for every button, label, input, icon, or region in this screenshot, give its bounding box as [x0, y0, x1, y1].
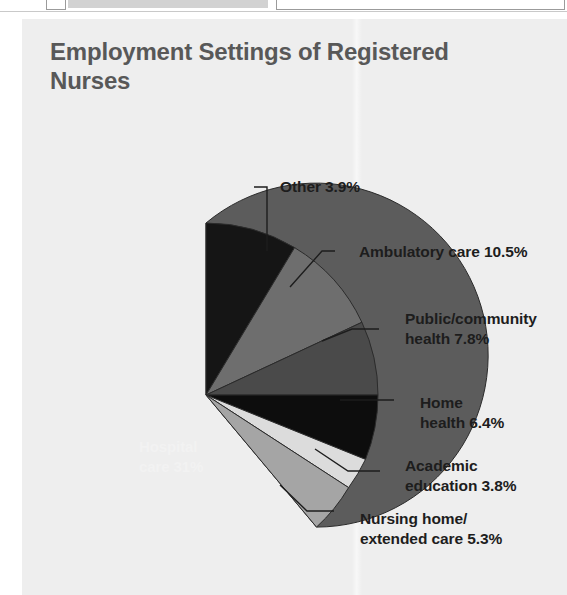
pie-label-other: Other 3.9% [280, 177, 360, 197]
pie-label-home-health: Home health 6.4% [420, 393, 504, 433]
pie-label-public-community-health: Public/community health 7.8% [405, 309, 537, 349]
pie-label-nursing-home-extended-care: Nursing home/ extended care 5.3% [360, 509, 502, 549]
pie-label-ambulatory-care: Ambulatory care 10.5% [359, 242, 527, 262]
figure-panel: Employment Settings of Registered Nurses [22, 19, 567, 595]
header-right-box [276, 0, 565, 10]
pie-label-hospital-care: Hospital care 31% [139, 437, 203, 476]
header-band-label: TABLE 5-1 [92, 0, 185, 3]
header-left-box [46, 0, 66, 10]
header-divider [0, 11, 567, 12]
pie-chart: Other 3.9% Ambulatory care 10.5% Public/… [22, 19, 567, 595]
pie-label-academic-education: Academic education 3.8% [405, 456, 516, 496]
